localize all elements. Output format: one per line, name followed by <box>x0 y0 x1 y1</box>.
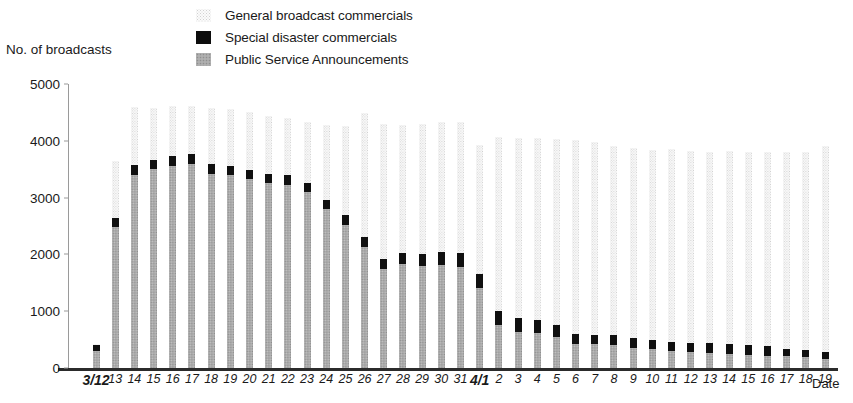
bar-stack <box>380 124 387 369</box>
bar-stack <box>534 138 541 368</box>
bar-segment-general <box>610 146 617 336</box>
bar-segment-general <box>630 148 637 337</box>
bar-segment-general <box>169 106 176 156</box>
x-axis-tick-label: 17 <box>185 372 199 386</box>
bar-stack <box>745 152 752 368</box>
bar-segment-special <box>380 259 387 269</box>
bar-segment-psa <box>131 175 138 368</box>
bar-stack <box>476 145 483 368</box>
bar-segment-special <box>246 170 253 179</box>
bar-segment-psa <box>553 337 560 368</box>
bar-segment-psa <box>323 209 330 368</box>
bar-segment-psa <box>591 344 598 368</box>
bar-stack <box>706 152 713 368</box>
legend-label-general: General broadcast commercials <box>225 8 413 23</box>
x-axis-tick-label: 20 <box>243 372 257 386</box>
bar-segment-special <box>419 254 426 266</box>
bar-segment-general <box>265 116 272 175</box>
bar-stack <box>342 126 349 368</box>
bar-stack <box>246 112 253 368</box>
bar-segment-psa <box>399 264 406 368</box>
bar-segment-psa <box>342 225 349 368</box>
bar-stack <box>227 109 234 368</box>
x-axis-tick-label: 31 <box>454 372 468 386</box>
bar-segment-psa <box>380 269 387 368</box>
bar-segment-general <box>399 125 406 253</box>
x-axis-line <box>58 368 838 371</box>
y-axis-title: No. of broadcasts <box>6 42 112 57</box>
bar-stack <box>284 118 291 368</box>
bar-stack <box>112 161 119 368</box>
bar-stack <box>208 108 215 368</box>
x-axis-tick-label: 19 <box>223 372 237 386</box>
x-axis-tick-label: 24 <box>319 372 333 386</box>
bar-segment-special <box>361 237 368 248</box>
x-axis-tick-label: 18 <box>799 372 813 386</box>
x-axis-tick-label: 17 <box>780 372 794 386</box>
bar-segment-psa <box>783 356 790 368</box>
bar-stack <box>610 146 617 368</box>
bar-segment-special <box>284 175 291 184</box>
bar-segment-general <box>783 152 790 349</box>
bar-stack <box>783 152 790 368</box>
bar-segment-general <box>822 146 829 352</box>
bar-stack <box>438 122 445 368</box>
bar-segment-general <box>131 107 138 165</box>
x-axis-tick-label: 4 <box>534 372 541 386</box>
bar-segment-special <box>668 342 675 351</box>
bar-segment-psa <box>706 353 713 368</box>
legend-item-general: General broadcast commercials <box>196 4 413 26</box>
legend-item-special: Special disaster commercials <box>196 26 413 48</box>
x-axis-tick-label: 26 <box>358 372 372 386</box>
bar-segment-special <box>208 164 215 174</box>
bar-segment-special <box>649 340 656 350</box>
bar-stack <box>802 152 809 368</box>
bar-segment-special <box>342 215 349 225</box>
bar-segment-psa <box>687 352 694 368</box>
bar-segment-general <box>112 161 119 218</box>
bar-segment-general <box>188 106 195 154</box>
bar-segment-special <box>783 349 790 356</box>
bar-segment-general <box>572 140 579 334</box>
bar-segment-psa <box>227 175 234 368</box>
bar-stack <box>323 125 330 368</box>
special-swatch-icon <box>196 31 211 44</box>
bar-segment-general <box>246 112 253 171</box>
bar-segment-general <box>553 139 560 325</box>
bar-segment-special <box>131 165 138 175</box>
bar-segment-special <box>802 350 809 357</box>
bar-segment-special <box>726 344 733 354</box>
x-axis-tick-label: 7 <box>591 372 598 386</box>
bar-segment-psa <box>764 356 771 368</box>
bar-segment-special <box>610 335 617 345</box>
x-axis-tick-label: 3 <box>515 372 522 386</box>
bar-segment-special <box>553 325 560 337</box>
bar-segment-special <box>687 343 694 352</box>
x-axis-tick-label: 12 <box>684 372 698 386</box>
x-axis-tick-label: 15 <box>147 372 161 386</box>
bar-segment-general <box>284 118 291 176</box>
bar-segment-psa <box>726 354 733 368</box>
bar-stack <box>457 122 464 368</box>
bar-stack <box>495 137 502 368</box>
legend-label-psa: Public Service Announcements <box>225 52 408 67</box>
bar-segment-general <box>380 124 387 259</box>
bar-stack <box>630 148 637 368</box>
bar-stack <box>361 113 368 368</box>
bar-segment-psa <box>438 265 445 368</box>
x-axis-tick-label: 28 <box>396 372 410 386</box>
bar-segment-special <box>822 352 829 359</box>
bar-segment-special <box>764 346 771 355</box>
bar-segment-special <box>630 338 637 348</box>
x-axis-tick-label: 30 <box>434 372 448 386</box>
bar-segment-general <box>476 145 483 274</box>
bar-stack <box>764 152 771 368</box>
x-axis-tick-label: 11 <box>665 372 678 386</box>
bar-segment-general <box>591 142 598 335</box>
chart-legend: General broadcast commercials Special di… <box>196 4 413 70</box>
x-axis-tick-label: 18 <box>204 372 218 386</box>
x-axis-tick-label: 14 <box>722 372 736 386</box>
bar-stack <box>687 151 694 368</box>
bar-stack <box>515 138 522 368</box>
bar-segment-general <box>438 122 445 252</box>
